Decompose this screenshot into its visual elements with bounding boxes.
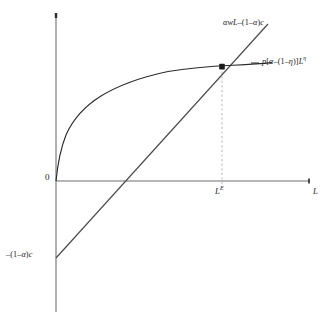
line-equation-label: αwL–(1–α)c <box>223 19 264 27</box>
origin-label: 0 <box>45 173 50 182</box>
equilibrium-point-marker <box>219 64 225 70</box>
curve-eq-eta2: η <box>303 55 306 61</box>
production-curve <box>56 63 272 181</box>
plot-canvas <box>0 0 330 323</box>
wage-cost-line <box>56 24 268 258</box>
equilibrium-tick-label: LE <box>215 187 224 196</box>
economics-diagram-figure: αwL–(1–α)c p[α–(1–η)]Lη –(1–α)c 0 LE L <box>0 0 330 323</box>
curve-equation-label: p[α–(1–η)]Lη <box>262 58 306 66</box>
line-eq-c: c <box>260 18 264 27</box>
le-superscript: E <box>220 184 224 191</box>
x-axis-label: L <box>313 187 318 196</box>
intercept-c: c <box>29 250 33 259</box>
curve-eq-minus: –(1– <box>273 57 288 66</box>
y-intercept-label: –(1–α)c <box>6 251 32 259</box>
intercept-prefix: –(1– <box>6 250 21 259</box>
line-eq-minus: –(1– <box>238 18 253 27</box>
